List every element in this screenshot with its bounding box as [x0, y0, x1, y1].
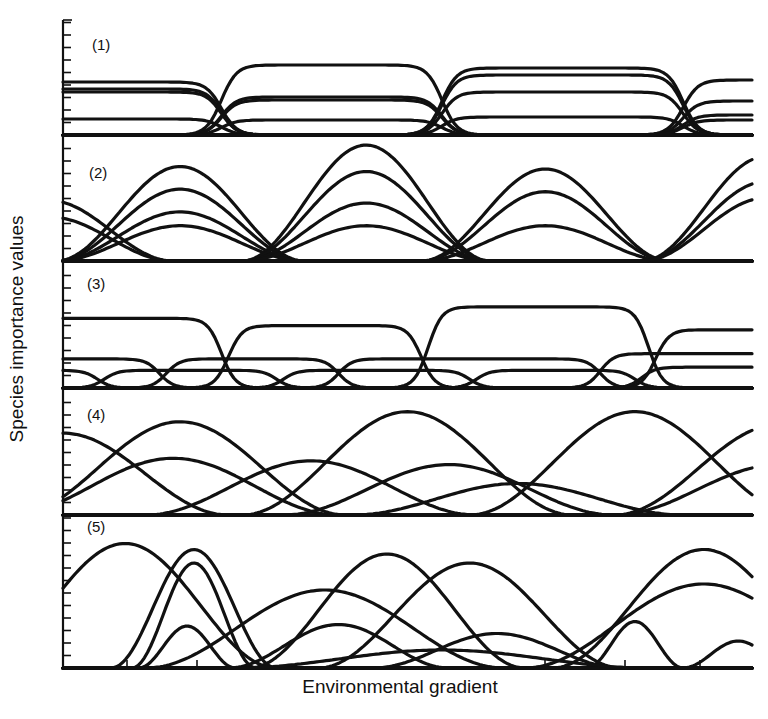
- species-curve-g5-c: [63, 200, 752, 261]
- y-axis-label: Species importance values: [6, 204, 28, 454]
- x-axis-label: Environmental gradient: [200, 676, 600, 698]
- species-curve-g3-a: [63, 145, 752, 261]
- species-curve-g4-a: [63, 169, 752, 261]
- species-curve-g2-b: [63, 189, 752, 261]
- panel-5: [63, 544, 752, 669]
- figure: Species importance values Environmental …: [0, 0, 768, 719]
- panel-label-1: (1): [92, 36, 110, 53]
- species-curve-g1-a: [63, 202, 752, 261]
- species-curve-sp-a: [63, 433, 752, 515]
- panel-2: [63, 145, 752, 261]
- panel-label-3: (3): [87, 275, 105, 292]
- species-curve-zone3-b: [63, 75, 752, 135]
- stacked-panels-plot: [0, 0, 768, 719]
- panel-label-4: (4): [87, 406, 105, 423]
- species-curve-sp-e: [63, 412, 752, 515]
- species-curve-sp-b: [63, 422, 752, 515]
- panel-label-2: (2): [89, 164, 107, 181]
- panel-3: [63, 307, 752, 388]
- species-curves: [63, 65, 752, 668]
- panel-4: [63, 412, 752, 515]
- panel-label-5: (5): [87, 518, 105, 535]
- species-curve-sp-g: [63, 412, 752, 515]
- panel-1: [63, 65, 752, 135]
